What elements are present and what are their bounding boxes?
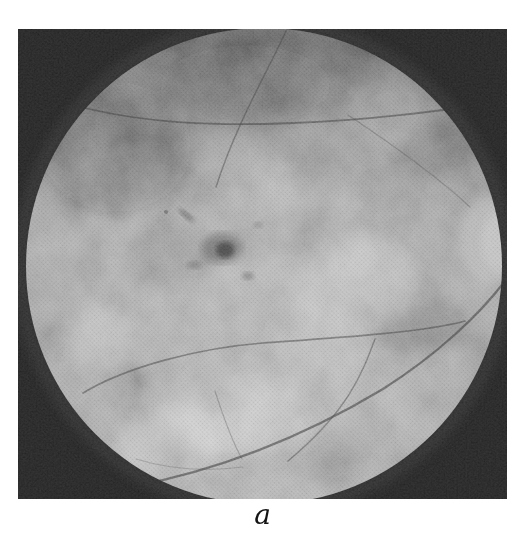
fundus-photograph [18, 29, 507, 499]
page: a [0, 0, 532, 537]
grain-overlay [18, 29, 507, 499]
figure-panel [18, 29, 507, 499]
figure-label: a [18, 501, 507, 529]
